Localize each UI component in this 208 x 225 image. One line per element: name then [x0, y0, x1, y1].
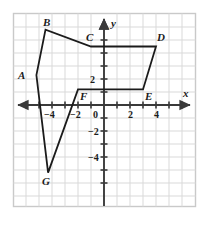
vertex-label-c: C — [86, 32, 93, 43]
vertex-label-a: A — [18, 70, 25, 81]
y-tick-label-2: 2 — [90, 75, 95, 85]
x-tick-label-neg2: −2 — [70, 110, 81, 120]
x-tick-label-4: 4 — [154, 110, 159, 120]
coordinate-plane-figure: A B C D E F G y x −4 −2 2 4 2 −2 −4 0 — [0, 0, 208, 225]
x-tick-label-neg4: −4 — [44, 110, 55, 120]
vertex-label-g: G — [42, 176, 50, 187]
origin-label: 0 — [93, 110, 98, 120]
x-tick-label-2: 2 — [128, 110, 133, 120]
x-axis-label: x — [183, 88, 189, 99]
y-axis-label: y — [111, 18, 116, 29]
vertex-label-b: B — [43, 17, 50, 28]
y-tick-label-neg4: −4 — [88, 153, 99, 163]
plot-canvas — [0, 0, 208, 225]
vertex-label-f: F — [80, 91, 87, 102]
vertex-label-e: E — [145, 91, 152, 102]
y-tick-label-neg2: −2 — [88, 127, 99, 137]
vertex-label-d: D — [157, 32, 165, 43]
